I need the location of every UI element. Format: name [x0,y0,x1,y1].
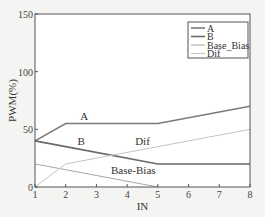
annotation-label: Dif [135,135,150,147]
legend: ABBase_BiasDif [188,22,249,59]
annotation-label: Base-Bias [111,164,156,176]
x-tick-label: 4 [125,189,130,200]
x-tick-label: 6 [186,189,191,200]
x-axis-label: IN [137,200,149,212]
x-tick-label: 3 [94,189,99,200]
legend-entry: Dif [207,48,221,59]
y-tick-label: 150 [18,9,33,20]
y-tick-label: 50 [23,124,33,135]
x-tick-label: 5 [155,189,160,200]
x-tick-label: 8 [248,189,253,200]
annotation-label: B [77,135,84,147]
x-tick-label: 7 [217,189,222,200]
y-axis-label: PWM(%) [6,79,19,122]
y-tick-label: 0 [28,182,33,193]
line-chart: ABDifBase-Bias 12345678050100150INPWM(%)… [0,0,265,217]
x-tick-label: 2 [63,189,68,200]
annotation-label: A [80,110,88,122]
y-tick-label: 100 [18,67,33,78]
x-tick-label: 1 [33,189,38,200]
